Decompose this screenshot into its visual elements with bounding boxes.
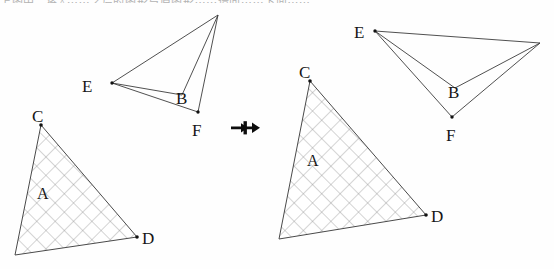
arrow-bar-accent [244, 121, 247, 134]
left-label-A: A [37, 185, 49, 202]
right-triangle-shape [260, 60, 460, 260]
left-dart-shape [110, 15, 218, 114]
left-label-F: F [192, 121, 201, 140]
right-label-D: D [431, 207, 443, 226]
left-label-D: D [142, 229, 154, 248]
right-label-F: F [446, 126, 455, 145]
double-right-arrow-icon [231, 121, 260, 134]
geometry-figure: E B F C D A [0, 0, 554, 269]
left-vertex-dot-F [196, 110, 199, 113]
left-dart-lower-edge [112, 15, 218, 112]
right-label-B: B [448, 83, 459, 102]
left-label-C: C [32, 107, 43, 126]
right-label-C: C [299, 63, 310, 82]
left-label-B: B [176, 89, 187, 108]
right-vertex-dot-D [424, 213, 428, 217]
right-dart-shape [373, 29, 540, 118]
left-triangle-shape [0, 110, 200, 269]
left-vertex-dot-E [110, 81, 113, 84]
left-label-E: E [82, 77, 92, 96]
left-vertex-dot-D [135, 235, 139, 239]
right-label-A: A [307, 152, 319, 169]
right-vertex-dot-F [450, 115, 453, 118]
right-dart-lower-edge [375, 31, 540, 117]
right-vertex-dot-E [373, 29, 376, 32]
right-figure-group: E B F C D A [260, 23, 540, 260]
right-dart-upper-edge [375, 31, 540, 88]
left-figure-group: E B F C D A [0, 15, 218, 269]
right-triangle-hatch-fill [260, 60, 460, 260]
left-dart-upper-edge [112, 15, 218, 95]
left-triangle-hatch-fill [0, 110, 200, 269]
right-label-E: E [354, 23, 364, 42]
figure-page: 上图中，将△⋯⋯之后的图形与原图形⋯⋯请问⋯⋯下面⋯⋯ [0, 0, 554, 269]
